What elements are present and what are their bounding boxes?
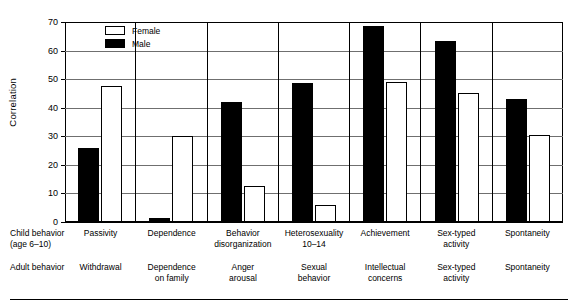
y-tick-label-60: 60	[48, 46, 58, 55]
adult-behavior-cell-line: Withdrawal	[66, 262, 135, 273]
child-behavior-cell-line: activity	[422, 239, 491, 250]
adult-behavior-cell-line: Spontaneity	[493, 262, 562, 273]
adult-behavior-row-header: Adult behavior	[0, 262, 65, 284]
bar-male	[221, 102, 242, 222]
y-axis-title: Correlation	[8, 78, 18, 127]
bar-male	[78, 148, 99, 222]
child-behavior-row-header: Child behavior (age 6–10)	[0, 228, 65, 250]
bar-male	[435, 41, 456, 222]
adult-behavior-cell: Angerarousal	[207, 262, 278, 284]
child-behavior-cell: Passivity	[65, 228, 136, 250]
child-behavior-header-line2: (age 6–10)	[10, 239, 65, 250]
bar-female	[315, 205, 336, 222]
child-behavior-cell: Heterosexuality10–14	[278, 228, 349, 250]
y-tick-label-30: 30	[48, 132, 58, 141]
y-tick-label-0: 0	[53, 218, 58, 227]
bar-female	[244, 186, 265, 222]
y-tick-label-50: 50	[48, 75, 58, 84]
bar-group	[421, 22, 492, 222]
adult-behavior-cell-line: Intellectual	[351, 262, 420, 273]
y-tick-label-20: 20	[48, 160, 58, 169]
adult-behavior-row: Adult behavior WithdrawalDependenceon fa…	[0, 262, 578, 284]
bar-female	[529, 135, 550, 222]
footer-divider	[10, 299, 568, 300]
y-tick-label-10: 10	[48, 189, 58, 198]
bar-male	[506, 99, 527, 222]
adult-behavior-cell: Intellectualconcerns	[350, 262, 421, 284]
legend-label-male: Male	[132, 39, 150, 49]
adult-behavior-cell-line: behavior	[279, 273, 348, 284]
bar-female	[172, 136, 193, 222]
adult-behavior-cell-line: Sexual	[279, 262, 348, 273]
child-behavior-cell-line: Behavior	[208, 228, 277, 239]
bar-male	[292, 83, 313, 222]
gridline-0	[65, 222, 563, 223]
child-behavior-cell-line: Dependence	[137, 228, 206, 239]
child-behavior-cell: Dependence	[136, 228, 207, 250]
child-behavior-cell: Spontaneity	[492, 228, 563, 250]
bar-chart-figure: Correlation 706050403020100 Female Male …	[0, 0, 578, 307]
bar-female	[458, 93, 479, 222]
adult-behavior-cell-line: Anger	[208, 262, 277, 273]
legend-label-female: Female	[132, 26, 160, 36]
adult-behavior-cell-line: activity	[422, 273, 491, 284]
adult-behavior-cell-line: Dependence	[137, 262, 206, 273]
child-behavior-cell-line: Passivity	[66, 228, 135, 239]
child-behavior-header-line1: Child behavior	[10, 228, 65, 239]
child-behavior-cell-line: Heterosexuality	[279, 228, 348, 239]
plot-area: 706050403020100 Female Male	[65, 22, 563, 222]
adult-behavior-cell: Sexualbehavior	[278, 262, 349, 284]
adult-behavior-cell-line: concerns	[351, 273, 420, 284]
adult-behavior-cell: Withdrawal	[65, 262, 136, 284]
child-behavior-cell-line: Sex-typed	[422, 228, 491, 239]
bar-female	[101, 86, 122, 222]
child-behavior-cell-line: disorganization	[208, 239, 277, 250]
adult-behavior-cell: Spontaneity	[492, 262, 563, 284]
bar-group	[136, 22, 207, 222]
adult-behavior-cell-line: arousal	[208, 273, 277, 284]
adult-behavior-cell-line: on family	[137, 273, 206, 284]
chart-legend: Female Male	[105, 25, 160, 51]
bar-male	[149, 218, 170, 222]
adult-behavior-cell-line: Sex-typed	[422, 262, 491, 273]
bar-group	[350, 22, 421, 222]
legend-item-female: Female	[105, 25, 160, 36]
legend-item-male: Male	[105, 38, 160, 49]
child-behavior-cell: Behaviordisorganization	[207, 228, 278, 250]
bar-groups	[65, 22, 563, 222]
bar-group	[279, 22, 350, 222]
child-behavior-cell-line: 10–14	[279, 239, 348, 250]
y-tick-label-70: 70	[48, 18, 58, 27]
y-tick-mark-0	[61, 222, 65, 223]
child-behavior-cell: Achievement	[350, 228, 421, 250]
adult-behavior-cell: Sex-typedactivity	[421, 262, 492, 284]
legend-swatch-female	[105, 26, 125, 35]
child-behavior-cell-line: Spontaneity	[493, 228, 562, 239]
legend-swatch-male	[105, 39, 125, 48]
y-tick-label-40: 40	[48, 103, 58, 112]
child-behavior-row: Child behavior (age 6–10) PassivityDepen…	[0, 228, 578, 250]
child-behavior-cell-line: Achievement	[351, 228, 420, 239]
bar-group	[208, 22, 279, 222]
bar-group	[493, 22, 563, 222]
bar-female	[386, 82, 407, 222]
bar-group	[65, 22, 136, 222]
bar-male	[363, 26, 384, 222]
child-behavior-cell: Sex-typedactivity	[421, 228, 492, 250]
adult-behavior-cell: Dependenceon family	[136, 262, 207, 284]
